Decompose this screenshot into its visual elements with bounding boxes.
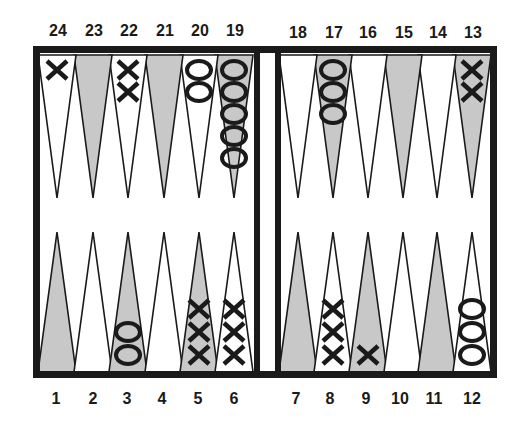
label-11: 11 [416, 390, 452, 408]
label-10: 10 [382, 390, 418, 408]
label-14: 14 [420, 24, 456, 42]
label-17: 17 [316, 24, 352, 42]
label-24: 24 [40, 22, 76, 40]
label-6: 6 [216, 390, 252, 408]
label-9: 9 [348, 390, 384, 408]
label-22: 22 [111, 22, 147, 40]
bar-right-edge [275, 46, 281, 378]
bar-left-edge [254, 46, 260, 378]
label-23: 23 [76, 22, 112, 40]
label-13: 13 [455, 24, 491, 42]
backgammon-board [0, 0, 522, 433]
label-2: 2 [75, 390, 111, 408]
label-7: 7 [278, 390, 314, 408]
label-20: 20 [182, 22, 218, 40]
label-16: 16 [350, 24, 386, 42]
label-21: 21 [147, 22, 183, 40]
label-1: 1 [38, 390, 74, 408]
bar[interactable] [260, 53, 275, 371]
label-12: 12 [454, 390, 490, 408]
label-15: 15 [386, 24, 422, 42]
label-18: 18 [280, 24, 316, 42]
label-3: 3 [109, 390, 145, 408]
label-4: 4 [144, 390, 180, 408]
label-8: 8 [312, 390, 348, 408]
label-5: 5 [180, 390, 216, 408]
label-19: 19 [217, 22, 253, 40]
